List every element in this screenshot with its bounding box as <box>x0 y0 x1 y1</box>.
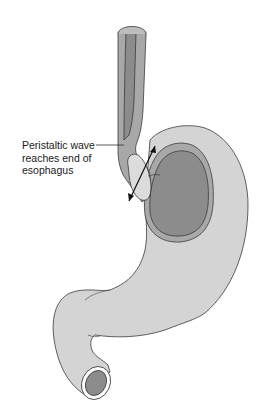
esophagus-top <box>118 27 146 35</box>
label-line-2: reaches end of <box>22 152 95 165</box>
stomach-diagram: Peristaltic wave reaches end of esophagu… <box>0 0 259 406</box>
peristaltic-wave-label: Peristaltic wave reaches end of esophagu… <box>22 139 95 177</box>
label-line-1: Peristaltic wave <box>22 139 95 152</box>
stomach-illustration <box>0 0 259 406</box>
label-line-3: esophagus <box>22 164 95 177</box>
